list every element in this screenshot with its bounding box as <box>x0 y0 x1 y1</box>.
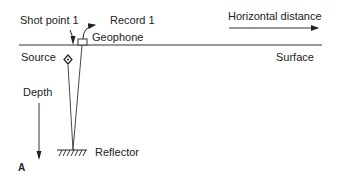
panel-label: A <box>18 162 25 174</box>
depth-arrowhead-icon <box>37 151 42 160</box>
horizontal-distance-label: Horizontal distance <box>228 10 322 22</box>
source-label: Source <box>21 51 56 63</box>
reflector-icon <box>57 150 87 156</box>
geophone-icon <box>78 39 87 45</box>
shot-point-arrowhead-icon <box>71 36 76 45</box>
source-icon <box>64 55 72 64</box>
geophone-label: Geophone <box>92 31 143 43</box>
seismic-reflection-diagram: Shot point 1 Record 1 Geophone Horizonta… <box>0 0 337 180</box>
depth-label: Depth <box>23 86 52 98</box>
ray-down <box>68 65 73 150</box>
shot-point-label: Shot point 1 <box>20 14 79 26</box>
surface-label: Surface <box>276 51 314 63</box>
ray-up <box>73 45 82 150</box>
reflector-label: Reflector <box>95 146 139 158</box>
record-label: Record 1 <box>110 14 155 26</box>
